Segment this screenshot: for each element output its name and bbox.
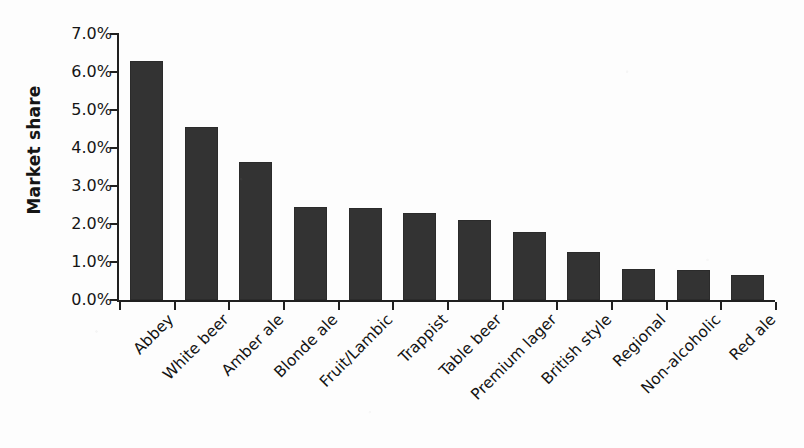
market-share-bar-chart: Market share 7.0%6.0%5.0%4.0%3.0%2.0%1.0… (0, 0, 804, 448)
bar (130, 61, 163, 300)
bar (185, 127, 218, 300)
bars-group (0, 0, 804, 302)
x-axis-category-labels: AbbeyWhite beerAmber aleBlonde aleFruit/… (0, 300, 804, 448)
